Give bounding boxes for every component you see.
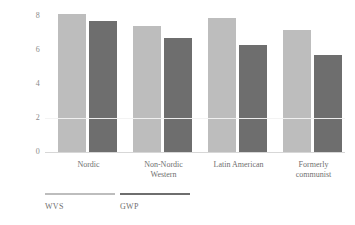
y-axis-tick-label: 0 — [18, 148, 40, 156]
y-axis-tick-label: 4 — [18, 80, 40, 88]
bar-wvs-non-nordic-western — [133, 26, 161, 152]
bar-chart: 02468 NordicNon-NordicWesternLatin Ameri… — [0, 0, 355, 225]
y-axis: 02468 — [0, 0, 40, 225]
bar-wvs-latin-american — [208, 18, 236, 152]
x-axis-label-line: Latin American — [203, 160, 275, 170]
legend-label-gwp: GWP — [120, 202, 200, 211]
x-axis-label-line: Nordic — [53, 160, 125, 170]
x-axis-label-line: communist — [278, 170, 350, 180]
y-axis-tick-label: 6 — [18, 46, 40, 54]
bar-gwp-non-nordic-western — [164, 38, 192, 152]
legend-item-gwp[interactable]: GWP — [120, 193, 200, 211]
chart-legend: WVSGWP — [45, 193, 345, 219]
x-axis-labels: NordicNon-NordicWesternLatin AmericanFor… — [45, 160, 345, 192]
bar-group — [133, 10, 192, 152]
bar-gwp-latin-american — [239, 45, 267, 152]
y-axis-tick-label: 2 — [18, 114, 40, 122]
x-axis-line — [45, 152, 345, 153]
bar-gwp-formerly-communist — [314, 55, 342, 152]
gridline-value-2 — [45, 118, 345, 119]
bar-gwp-nordic — [89, 21, 117, 152]
y-axis-tick-label: 8 — [18, 12, 40, 20]
x-axis-label-nordic: Nordic — [53, 160, 125, 170]
legend-item-wvs[interactable]: WVS — [45, 193, 125, 211]
x-axis-label-non-nordic-western: Non-NordicWestern — [128, 160, 200, 180]
x-axis-label-line: Non-Nordic — [128, 160, 200, 170]
legend-swatch-wvs — [45, 193, 115, 195]
bar-group — [283, 10, 342, 152]
bar-group — [208, 10, 267, 152]
bar-group — [58, 10, 117, 152]
x-axis-label-formerly-communist: Formerlycommunist — [278, 160, 350, 180]
legend-label-wvs: WVS — [45, 202, 125, 211]
plot-area — [45, 10, 345, 152]
x-axis-label-latin-american: Latin American — [203, 160, 275, 170]
x-axis-label-line: Western — [128, 170, 200, 180]
legend-swatch-gwp — [120, 193, 190, 195]
x-axis-label-line: Formerly — [278, 160, 350, 170]
bar-wvs-formerly-communist — [283, 30, 311, 152]
bar-wvs-nordic — [58, 14, 86, 152]
